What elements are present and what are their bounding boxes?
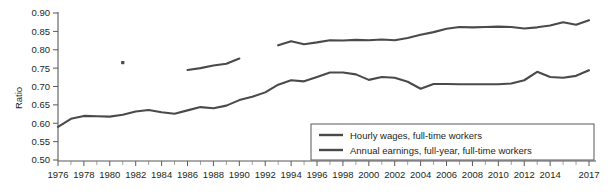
- x-tick-label: 1978: [73, 169, 94, 180]
- stray-marker: [121, 61, 124, 64]
- line-chart: 0.900.850.800.750.700.650.600.550.50 197…: [0, 0, 610, 196]
- x-tick-label: 2004: [410, 169, 431, 180]
- y-tick-label: 0.70: [32, 81, 51, 92]
- x-tick-label: 2012: [514, 169, 535, 180]
- y-axis-title: Ratio: [13, 87, 24, 109]
- x-axis-tick-labels: 1976197819801982198419861988199019921994…: [47, 169, 599, 180]
- x-tick-label: 1990: [229, 169, 250, 180]
- y-tick-label: 0.60: [32, 118, 51, 129]
- chart-container: 0.900.850.800.750.700.650.600.550.50 197…: [0, 0, 610, 196]
- series-line-annual-earnings: [188, 20, 589, 70]
- y-tick-label: 0.85: [32, 26, 51, 37]
- x-tick-label: 2010: [488, 169, 509, 180]
- chart-annotations: [121, 61, 124, 64]
- x-tick-label: 2000: [358, 169, 379, 180]
- x-tick-label: 1980: [99, 169, 120, 180]
- y-tick-label: 0.65: [32, 99, 51, 110]
- series-line-hourly-wages: [58, 70, 589, 127]
- y-tick-label: 0.80: [32, 44, 51, 55]
- series-lines: [58, 20, 589, 127]
- legend-label-hourly-wages: Hourly wages, full-time workers: [350, 130, 482, 141]
- x-tick-label: 2002: [384, 169, 405, 180]
- y-tick-label: 0.55: [32, 136, 51, 147]
- y-axis-tick-labels: 0.900.850.800.750.700.650.600.550.50: [32, 7, 51, 165]
- x-tick-label: 1998: [332, 169, 353, 180]
- x-tick-label: 2006: [436, 169, 457, 180]
- x-tick-label: 2017: [578, 169, 599, 180]
- x-tick-label: 1988: [203, 169, 224, 180]
- y-tick-label: 0.75: [32, 63, 51, 74]
- y-axis-ticks: [53, 13, 58, 160]
- x-tick-label: 1992: [255, 169, 276, 180]
- x-tick-label: 1986: [177, 169, 198, 180]
- x-axis-ticks: [58, 161, 589, 166]
- y-tick-label: 0.50: [32, 154, 51, 165]
- x-tick-label: 1996: [306, 169, 327, 180]
- x-tick-label: 2008: [462, 169, 483, 180]
- x-tick-label: 1976: [47, 169, 68, 180]
- chart-legend: Hourly wages, full-time workers Annual e…: [311, 124, 594, 160]
- x-tick-label: 1982: [125, 169, 146, 180]
- x-tick-label: 1984: [151, 169, 172, 180]
- x-tick-label: 2014: [540, 169, 561, 180]
- y-tick-label: 0.90: [32, 7, 51, 18]
- legend-label-annual-earnings: Annual earnings, full-year, full-time wo…: [350, 145, 532, 156]
- x-tick-label: 1994: [281, 169, 302, 180]
